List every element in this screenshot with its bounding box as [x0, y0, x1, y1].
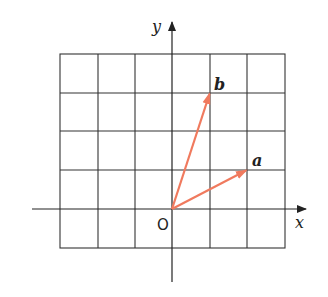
vector-a-label: a [252, 151, 262, 170]
origin-label: O [157, 216, 169, 234]
x-axis-label: x [295, 213, 304, 232]
vector-b-label: b [214, 75, 225, 94]
y-axis-label: y [151, 17, 162, 36]
axes [32, 22, 306, 282]
vector-diagram: y x O a b [0, 0, 328, 297]
vectors [172, 94, 246, 209]
